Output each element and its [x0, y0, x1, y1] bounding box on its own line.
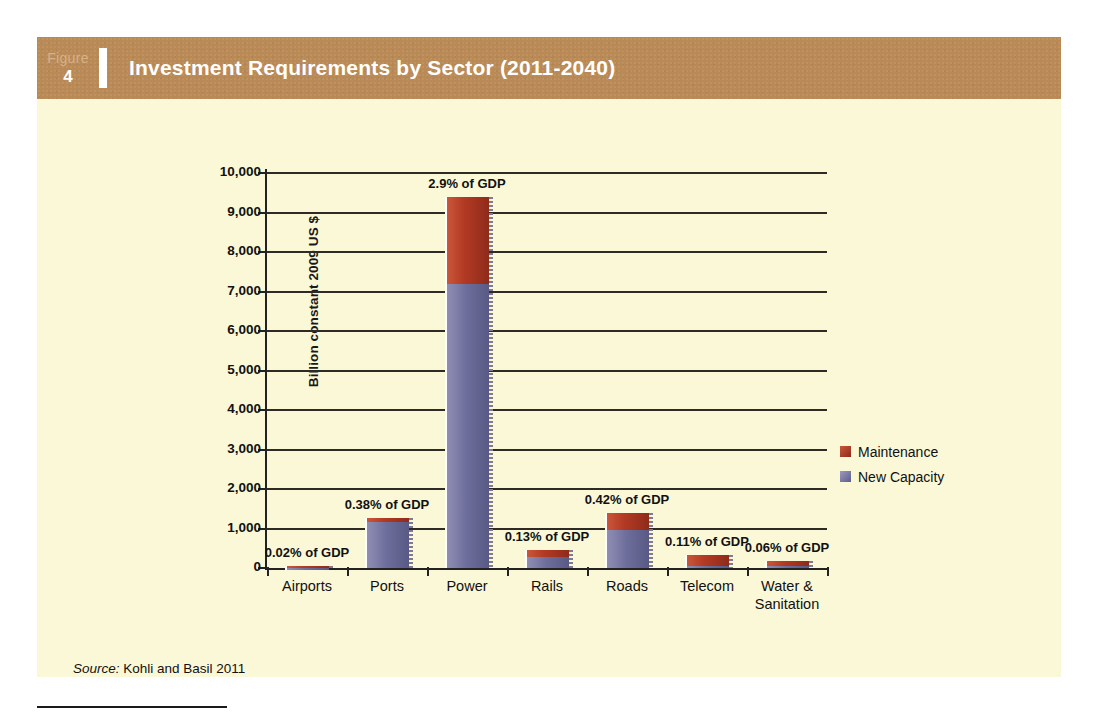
x-axis-category-label: Telecom [680, 577, 734, 595]
source-note: Source: Kohli and Basil 2011 [73, 661, 245, 676]
bar-shadow [729, 555, 733, 568]
stacked-bar[interactable] [605, 513, 649, 568]
x-axis-category-label-line: Water & [755, 577, 820, 595]
x-axis-category-label: Power [446, 577, 487, 595]
figure-card: Figure 4 Investment Requirements by Sect… [37, 37, 1061, 677]
gdp-annotation: 0.42% of GDP [585, 492, 670, 507]
header-divider-bar [99, 48, 107, 88]
y-axis-tick-label: 7,000 [141, 283, 261, 298]
bar-segment-new-capacity[interactable] [685, 566, 729, 568]
x-axis-category-label-line: Sanitation [755, 595, 820, 613]
y-axis-tick-label: 3,000 [141, 441, 261, 456]
x-axis-category-label-line: Telecom [680, 577, 734, 595]
bar-segment-new-capacity[interactable] [365, 522, 409, 568]
bar-segment-new-capacity[interactable] [605, 530, 649, 568]
figure-number: 4 [63, 67, 72, 87]
figure-label-word: Figure [47, 51, 88, 65]
legend-swatch-icon [840, 471, 851, 482]
bar-segment-maintenance[interactable] [445, 197, 489, 284]
x-axis-tick [667, 567, 669, 576]
stacked-bar[interactable] [525, 550, 569, 568]
bar-shadow [329, 566, 333, 568]
x-axis-tick [347, 567, 349, 576]
x-axis-category-label: Water &Sanitation [755, 577, 820, 613]
x-axis-category-label: Rails [531, 577, 563, 595]
y-axis-tick-label: 9,000 [141, 204, 261, 219]
bar-segment-maintenance[interactable] [605, 513, 649, 530]
bar-segment-new-capacity[interactable] [765, 566, 809, 568]
bar-segment-new-capacity[interactable] [445, 284, 489, 568]
gdp-annotation: 0.02% of GDP [265, 545, 350, 560]
y-axis-tick-label: 10,000 [141, 164, 261, 179]
stacked-bar[interactable] [685, 555, 729, 568]
bar-shadow [649, 513, 653, 568]
bar-group-roads[interactable]: 0.42% of GDPRoads [587, 173, 667, 568]
gdp-annotation: 0.06% of GDP [745, 540, 830, 555]
x-axis-category-label-line: Airports [282, 577, 332, 595]
figure-title: Investment Requirements by Sector (2011-… [107, 37, 1061, 99]
stacked-bar[interactable] [445, 197, 489, 568]
bar-group-rails[interactable]: 0.13% of GDPRails [507, 173, 587, 568]
x-axis-tick [587, 567, 589, 576]
legend-item-maint[interactable]: Maintenance [840, 439, 944, 464]
bar-group-telecom[interactable]: 0.11% of GDPTelecom [667, 173, 747, 568]
chart-legend: MaintenanceNew Capacity [840, 439, 944, 489]
x-axis-category-label-line: Power [446, 577, 487, 595]
chart-area: Billion constant 2009 US $ 01,0002,0003,… [37, 99, 1061, 677]
bar-segment-new-capacity[interactable] [525, 557, 569, 568]
gdp-annotation: 0.11% of GDP [665, 534, 749, 549]
figure-header-banner: Figure 4 Investment Requirements by Sect… [37, 37, 1061, 99]
x-axis-category-label: Ports [370, 577, 404, 595]
y-axis-tick-label: 0 [141, 559, 261, 574]
x-axis-tick [507, 567, 509, 576]
x-axis-category-label-line: Rails [531, 577, 563, 595]
x-axis-line [265, 568, 827, 570]
x-axis-tick [267, 567, 269, 576]
x-axis-category-label-line: Ports [370, 577, 404, 595]
stacked-bar[interactable] [285, 566, 329, 568]
y-axis-tick-label: 8,000 [141, 243, 261, 258]
bar-shadow [809, 561, 813, 568]
bar-series-group: 0.02% of GDPAirports0.38% of GDPPorts2.9… [267, 173, 827, 568]
plot-area: 01,0002,0003,0004,0005,0006,0007,0008,00… [265, 173, 827, 568]
y-axis-tick-label: 1,000 [141, 520, 261, 535]
x-axis-tick [827, 567, 829, 576]
footnote-separator-rule [37, 706, 227, 708]
bar-group-ports[interactable]: 0.38% of GDPPorts [347, 173, 427, 568]
y-axis-tick-label: 5,000 [141, 362, 261, 377]
stacked-bar[interactable] [765, 561, 809, 568]
bar-segment-maintenance[interactable] [685, 555, 729, 566]
bar-shadow [489, 197, 493, 568]
legend-label: Maintenance [858, 444, 938, 460]
gdp-annotation: 0.38% of GDP [345, 497, 430, 512]
bar-group-water-sanitation[interactable]: 0.06% of GDPWater &Sanitation [747, 173, 827, 568]
legend-item-newcap[interactable]: New Capacity [840, 464, 944, 489]
stacked-bar[interactable] [365, 518, 409, 568]
x-axis-tick [427, 567, 429, 576]
source-text: Kohli and Basil 2011 [120, 661, 246, 676]
figure-number-block: Figure 4 [37, 37, 99, 99]
x-axis-category-label-line: Roads [606, 577, 648, 595]
y-axis-tick-label: 4,000 [141, 401, 261, 416]
source-prefix: Source: [73, 661, 120, 676]
bar-segment-new-capacity[interactable] [285, 568, 329, 570]
gdp-annotation: 0.13% of GDP [505, 529, 590, 544]
bar-shadow [409, 518, 413, 568]
bar-group-power[interactable]: 2.9% of GDPPower [427, 173, 507, 568]
bar-shadow [569, 550, 573, 568]
gdp-annotation: 2.9% of GDP [428, 176, 505, 191]
legend-label: New Capacity [858, 469, 944, 485]
bar-group-airports[interactable]: 0.02% of GDPAirports [267, 173, 347, 568]
y-axis-tick-label: 6,000 [141, 322, 261, 337]
x-axis-tick [747, 567, 749, 576]
x-axis-category-label: Airports [282, 577, 332, 595]
legend-swatch-icon [840, 446, 851, 457]
y-axis-tick-label: 2,000 [141, 480, 261, 495]
x-axis-category-label: Roads [606, 577, 648, 595]
